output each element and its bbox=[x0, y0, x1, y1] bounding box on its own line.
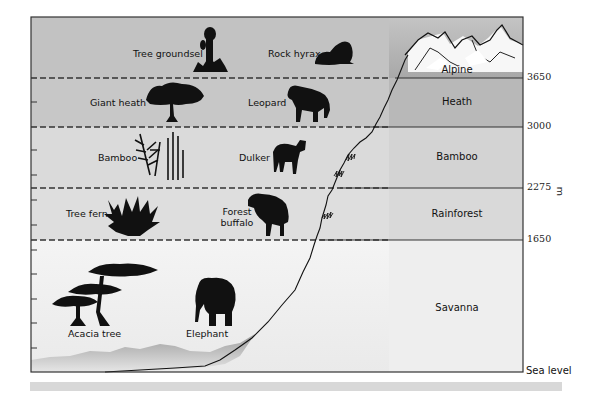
zone-label-bamboo: Bamboo bbox=[436, 151, 477, 162]
label-tree-groundsel: Tree groundsel bbox=[133, 48, 203, 59]
zone-label-rainforest: Rainforest bbox=[432, 208, 483, 219]
elevation-1650: 1650 bbox=[527, 233, 551, 244]
elevation-unit: m bbox=[555, 187, 566, 196]
label-forest-buffalo: Forest buffalo bbox=[218, 206, 256, 228]
label-bamboo-plant: Bamboo bbox=[98, 152, 137, 163]
label-forest-buffalo-line2: buffalo bbox=[221, 217, 254, 228]
label-forest-buffalo-line1: Forest bbox=[222, 206, 251, 217]
zone-label-alpine: Alpine bbox=[441, 64, 472, 75]
label-giant-heath: Giant heath bbox=[90, 97, 146, 108]
label-duiker: Dulker bbox=[239, 152, 270, 163]
elevation-2275: 2275 bbox=[527, 181, 551, 192]
band-heath-left bbox=[31, 78, 389, 127]
vegetation-zone-diagram: Tree groundsel Rock hyrax Giant heath Le… bbox=[0, 0, 592, 395]
label-acacia-tree: Acacia tree bbox=[68, 328, 121, 339]
page-text-strip bbox=[30, 382, 562, 391]
label-rock-hyrax: Rock hyrax bbox=[268, 48, 321, 59]
elevation-3650: 3650 bbox=[527, 71, 551, 82]
label-leopard: Leopard bbox=[248, 97, 286, 108]
label-elephant: Elephant bbox=[186, 328, 228, 339]
band-bamboo-left bbox=[31, 127, 389, 188]
elevation-3000: 3000 bbox=[527, 120, 551, 131]
label-tree-fern: Tree fern bbox=[66, 208, 108, 219]
sea-level-label: Sea level bbox=[526, 365, 572, 376]
zone-label-savanna: Savanna bbox=[435, 302, 478, 313]
zone-label-heath: Heath bbox=[442, 96, 472, 107]
